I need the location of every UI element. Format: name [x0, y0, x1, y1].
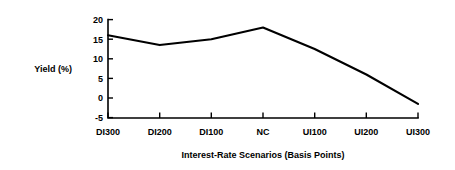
y-axis-title: Yield (%) [34, 64, 72, 74]
y-tick-label-0: 0 [98, 93, 103, 103]
y-tick-label-5: 5 [98, 74, 103, 84]
y-tick-label-minus5: -5 [95, 113, 103, 123]
y-tick-label-15: 15 [93, 35, 103, 45]
x-axis-title: Interest-Rate Scenarios (Basis Points) [181, 150, 344, 160]
y-tick-label-10: 10 [93, 54, 103, 64]
x-tick-label-di300: DI300 [96, 127, 120, 137]
x-tick-label-ui200: UI200 [354, 127, 378, 137]
yield-scenario-line-chart: Yield (%) 20 15 10 5 0 -5 [0, 0, 455, 170]
x-tick-label-ui100: UI100 [303, 127, 327, 137]
x-tick-label-nc: NC [257, 127, 270, 137]
x-tick-label-di200: DI200 [148, 127, 172, 137]
chart-canvas: Yield (%) 20 15 10 5 0 -5 [0, 0, 455, 170]
y-tick-label-20: 20 [93, 15, 103, 25]
x-tick-label-di100: DI100 [199, 127, 223, 137]
x-tick-label-ui300: UI300 [406, 127, 430, 137]
